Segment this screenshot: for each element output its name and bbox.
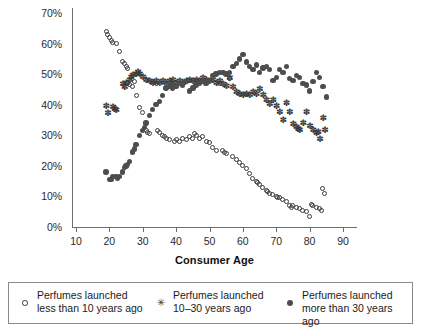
data-point-filled-circle [157, 99, 162, 104]
legend-label: Perfumes launched more than 30 years ago [302, 289, 412, 328]
scatter-chart: 0%10%20%30%40%50%60%70% 1020304050607080… [0, 0, 423, 272]
data-point-filled-circle [147, 113, 152, 118]
x-axis-tick-30: 30 [130, 236, 156, 247]
data-point-filled-circle [143, 120, 148, 125]
chart-legend: Perfumes launched less than 10 years ago… [8, 282, 413, 324]
data-point-filled-circle [317, 75, 322, 80]
x-axis-tick-80: 80 [297, 236, 323, 247]
chart-figure: 0%10%20%30%40%50%60%70% 1020304050607080… [0, 0, 423, 332]
data-point-filled-circle [267, 67, 272, 72]
data-point-open-circle [214, 148, 219, 153]
data-point-star: ✽ [279, 117, 286, 124]
data-point-filled-circle [320, 84, 325, 89]
data-point-star: ✽ [286, 109, 293, 116]
legend-item-more-than-30-years: Perfumes launched more than 30 years ago [284, 289, 412, 328]
data-point-filled-circle [304, 82, 309, 87]
x-axis-tick-60: 60 [230, 236, 256, 247]
data-point-filled-circle [160, 93, 165, 98]
x-axis-tick-50: 50 [197, 236, 223, 247]
data-point-filled-circle [307, 88, 312, 93]
x-axis-tick-mark-40 [176, 228, 177, 232]
data-point-star: ✽ [316, 136, 323, 143]
x-axis-tick-mark-10 [76, 228, 77, 232]
x-axis-tick-20: 20 [96, 236, 122, 247]
x-axis-tick-mark-70 [276, 228, 277, 232]
data-point-filled-circle [297, 75, 302, 80]
legend-item-10-to-30-years: ✳ Perfumes launched 10–30 years ago [155, 289, 263, 317]
data-point-filled-circle [240, 52, 245, 57]
data-point-filled-circle [280, 70, 285, 75]
data-point-filled-circle [290, 78, 295, 83]
data-point-filled-circle [237, 56, 242, 61]
data-point-open-circle [117, 49, 122, 54]
x-axis-tick-40: 40 [163, 236, 189, 247]
x-axis-tick-10: 10 [63, 236, 89, 247]
x-axis-tick-90: 90 [330, 236, 356, 247]
data-point-open-circle [140, 110, 145, 115]
y-axis-tick-0%: 0% [16, 222, 62, 233]
data-point-filled-circle [120, 169, 125, 174]
filled-circle-icon [284, 289, 296, 317]
y-axis-tick-40%: 40% [16, 100, 62, 111]
x-axis-tick-mark-30 [143, 228, 144, 232]
data-point-open-circle [114, 41, 119, 46]
plot-area: ✽✽✽✽✽✽✽✽✽✽✽✽✽✽✽✽✽✽✽✽✽✽✽✽✽✽✽✽✽✽✽✽✽✽✽✽✽✽✽✽… [72, 8, 356, 227]
y-axis-tick-10%: 10% [16, 191, 62, 202]
data-point-star: ✽ [319, 115, 326, 122]
x-axis-tick-mark-20 [109, 228, 110, 232]
data-point-filled-circle [137, 133, 142, 138]
y-axis-tick-30%: 30% [16, 130, 62, 141]
legend-label: Perfumes launched 10–30 years ago [173, 289, 263, 315]
data-point-filled-circle [132, 146, 137, 151]
legend-item-less-than-10-years: Perfumes launched less than 10 years ago [19, 289, 143, 317]
data-point-filled-circle [150, 107, 155, 112]
data-point-star: ✽ [303, 109, 310, 116]
data-point-filled-circle [103, 169, 108, 174]
data-point-star: ✽ [296, 127, 303, 134]
data-point-filled-circle [284, 64, 289, 69]
x-axis-title: Consumer Age [72, 254, 357, 266]
data-point-filled-circle [310, 79, 315, 84]
data-point-filled-circle [254, 62, 259, 67]
x-axis-tick-70: 70 [263, 236, 289, 247]
x-axis-tick-mark-90 [343, 228, 344, 232]
data-point-open-circle [224, 151, 229, 156]
data-point-star: ✽ [283, 100, 290, 107]
data-point-filled-circle [207, 78, 212, 83]
x-axis-tick-mark-50 [210, 228, 211, 232]
x-axis-tick-mark-80 [310, 228, 311, 232]
data-point-open-circle [147, 131, 152, 136]
data-point-open-circle [322, 191, 327, 196]
data-point-filled-circle [324, 94, 329, 99]
data-point-star: ✽ [113, 107, 120, 114]
data-point-open-circle [134, 93, 139, 98]
open-circle-icon [19, 289, 31, 317]
x-axis-tick-mark-60 [243, 228, 244, 232]
data-point-filled-circle [274, 75, 279, 80]
legend-label: Perfumes launched less than 10 years ago [37, 289, 143, 315]
y-axis-tick-70%: 70% [16, 8, 62, 19]
data-point-star: ✽ [321, 127, 328, 134]
data-point-filled-circle [127, 159, 132, 164]
star-icon: ✳ [155, 289, 167, 317]
data-point-open-circle [307, 214, 312, 219]
x-axis-line [72, 227, 357, 228]
data-point-filled-circle [133, 142, 138, 147]
data-point-open-circle [319, 208, 324, 213]
y-axis-tick-20%: 20% [16, 161, 62, 172]
y-axis-tick-50%: 50% [16, 69, 62, 80]
y-axis-tick-60%: 60% [16, 39, 62, 50]
